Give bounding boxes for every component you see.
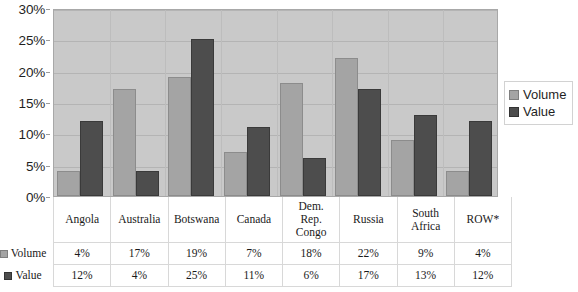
table-row: Value12%4%25%11%6%17%13%12% bbox=[0, 265, 512, 287]
table-cell: 17% bbox=[111, 243, 168, 265]
table-column-header: ROW* bbox=[454, 197, 511, 243]
table-cell: 12% bbox=[454, 265, 511, 287]
bar-volume bbox=[280, 83, 303, 196]
y-axis-tick-mark bbox=[46, 40, 50, 41]
bar-value bbox=[469, 121, 492, 196]
table-cell: 19% bbox=[168, 243, 225, 265]
table-cell: 4% bbox=[54, 243, 111, 265]
table-row-label-text: Value bbox=[15, 269, 41, 281]
bar-volume bbox=[391, 140, 414, 196]
bar-group bbox=[54, 10, 110, 196]
table-column-header: Dem.Rep.Congo bbox=[283, 197, 340, 243]
plot-area bbox=[53, 9, 498, 197]
bar-group bbox=[443, 10, 498, 196]
bar-group bbox=[332, 10, 388, 196]
bar-group bbox=[221, 10, 277, 196]
bar-group bbox=[388, 10, 444, 196]
table-row: Volume4%17%19%7%18%22%9%4% bbox=[0, 243, 512, 265]
table-row-label-text: Volume bbox=[11, 247, 47, 259]
volume-swatch-icon bbox=[509, 90, 519, 100]
bar-value bbox=[414, 115, 437, 196]
table-cell: 22% bbox=[340, 243, 397, 265]
legend-item-label: Volume bbox=[523, 87, 566, 102]
table-column-header: SouthAfrica bbox=[397, 197, 454, 243]
table-cell: 7% bbox=[225, 243, 282, 265]
chart-figure: 0%5%10%15%20%25%30% Volume Value AngolaA… bbox=[0, 0, 578, 292]
data-table-body: AngolaAustraliaBotswanaCanadaDem.Rep.Con… bbox=[0, 197, 512, 287]
volume-swatch-icon bbox=[0, 250, 8, 258]
bar-value bbox=[80, 121, 103, 196]
bar-volume bbox=[57, 171, 80, 196]
table-row-label: Volume bbox=[0, 243, 54, 265]
table-cell: 6% bbox=[283, 265, 340, 287]
legend-item-value: Value bbox=[509, 103, 568, 120]
chart-legend: Volume Value bbox=[504, 81, 573, 125]
table-corner-cell bbox=[0, 197, 54, 243]
value-swatch-icon bbox=[509, 107, 519, 117]
bar-value bbox=[303, 158, 326, 196]
y-axis-tick-mark bbox=[46, 103, 50, 104]
table-cell: 11% bbox=[225, 265, 282, 287]
bar-value bbox=[136, 171, 159, 196]
y-axis-tick-mark bbox=[46, 166, 50, 167]
y-axis-tick-mark bbox=[46, 72, 50, 73]
data-table: AngolaAustraliaBotswanaCanadaDem.Rep.Con… bbox=[0, 197, 512, 287]
y-axis-tick-mark bbox=[46, 134, 50, 135]
table-column-header: Angola bbox=[54, 197, 111, 243]
bar-volume bbox=[224, 152, 247, 196]
y-axis-tick-label: 5% bbox=[26, 158, 45, 173]
legend-item-volume: Volume bbox=[509, 86, 568, 103]
y-axis-tick-mark bbox=[46, 9, 50, 10]
table-cell: 4% bbox=[454, 243, 511, 265]
legend-item-label: Value bbox=[523, 104, 555, 119]
table-row-label: Value bbox=[0, 265, 54, 287]
y-axis-tick-label: 20% bbox=[19, 64, 45, 79]
table-header-row: AngolaAustraliaBotswanaCanadaDem.Rep.Con… bbox=[0, 197, 512, 243]
value-swatch-icon bbox=[4, 272, 12, 280]
bar-volume bbox=[446, 171, 469, 196]
bar-value bbox=[247, 127, 270, 196]
table-column-header: Russia bbox=[340, 197, 397, 243]
table-column-header: Australia bbox=[111, 197, 168, 243]
bar-volume bbox=[168, 77, 191, 196]
table-cell: 13% bbox=[397, 265, 454, 287]
bar-volume bbox=[113, 89, 136, 196]
bar-group bbox=[165, 10, 221, 196]
table-cell: 12% bbox=[54, 265, 111, 287]
y-axis-tick-label: 15% bbox=[19, 96, 45, 111]
y-axis-tick-label: 30% bbox=[19, 2, 45, 17]
table-column-header: Canada bbox=[225, 197, 282, 243]
bar-value bbox=[191, 39, 214, 196]
bar-group bbox=[277, 10, 333, 196]
table-cell: 18% bbox=[283, 243, 340, 265]
table-cell: 25% bbox=[168, 265, 225, 287]
table-cell: 17% bbox=[340, 265, 397, 287]
table-cell: 4% bbox=[111, 265, 168, 287]
table-cell: 9% bbox=[397, 243, 454, 265]
bar-group bbox=[110, 10, 166, 196]
bar-volume bbox=[335, 58, 358, 196]
y-axis-tick-label: 25% bbox=[19, 33, 45, 48]
table-column-header: Botswana bbox=[168, 197, 225, 243]
bar-value bbox=[358, 89, 381, 196]
y-axis-tick-label: 10% bbox=[19, 127, 45, 142]
y-axis: 0%5%10%15%20%25%30% bbox=[0, 0, 50, 200]
